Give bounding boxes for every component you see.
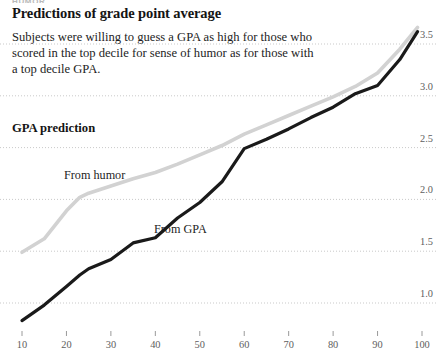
x-axis-tick-label: 60 [239,339,249,350]
x-axis-tick-label: 90 [372,339,382,350]
x-axis-tick-label: 50 [195,339,205,350]
series-line-gpa [22,32,418,321]
x-axis-tick-label: 80 [328,339,338,350]
x-axis-tick-label: 100 [414,339,430,350]
x-axis-tick-label: 40 [150,339,160,350]
y-axis-tick-label: 2.5 [420,133,433,144]
x-axis-tick-label: 20 [61,339,71,350]
y-axis-tick-label: 3.0 [420,81,433,92]
y-axis-tick-label: 2.0 [420,184,433,195]
y-axis-tick-label: 3.5 [420,29,433,40]
x-axis-tick-label: 30 [106,339,116,350]
x-axis-tick-label: 10 [17,339,27,350]
series-lines-group [22,27,418,320]
y-axis-tick-label: 1.5 [420,236,433,247]
line-chart-plot [0,0,436,356]
x-tickmarks-group [22,331,422,336]
y-axis-tick-label: 1.0 [420,288,433,299]
x-axis-tick-label: 70 [283,339,293,350]
gridlines-group [0,44,436,303]
series-line-humor [22,27,418,252]
